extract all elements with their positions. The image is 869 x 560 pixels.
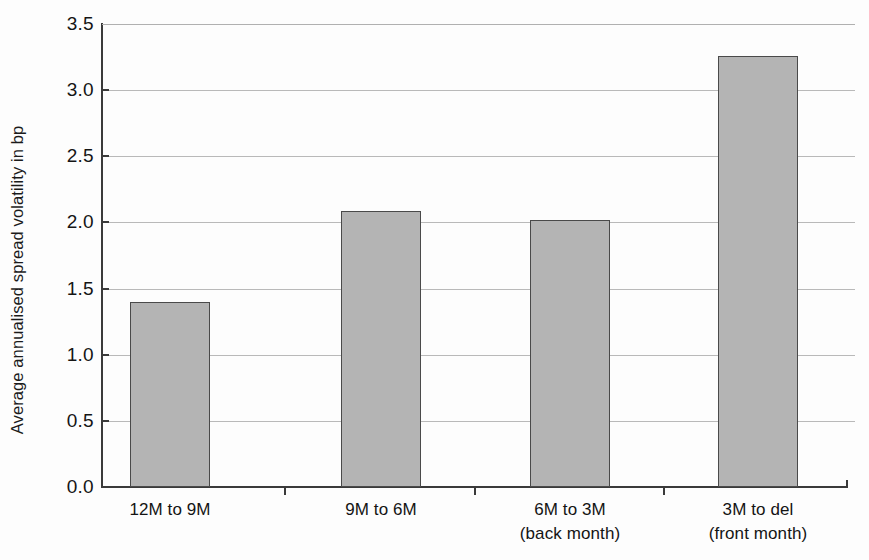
x-axis-tick-mark [284, 488, 286, 495]
y-axis-title: Average annualised spread volatility in … [0, 0, 34, 560]
x-axis-tick-mark [663, 488, 665, 495]
y-axis-tick-mark [102, 420, 109, 422]
gridline [102, 24, 855, 25]
bar [530, 220, 610, 487]
x-axis-category-label: 12M to 9M [77, 498, 263, 522]
bar [718, 56, 798, 487]
x-axis-tick-mark [474, 488, 476, 495]
y-axis-tick-label: 1.0 [46, 344, 94, 366]
y-axis-tick-label: 0.5 [46, 410, 94, 432]
bar [341, 211, 421, 487]
y-axis-tick-label: 3.0 [46, 79, 94, 101]
y-axis-tick-mark [102, 354, 109, 356]
y-axis-tick-mark [102, 288, 109, 290]
y-axis-tick-label: 2.0 [46, 211, 94, 233]
bar-chart: Average annualised spread volatility in … [0, 0, 869, 560]
y-axis-tick-label: 2.5 [46, 145, 94, 167]
y-axis-tick-label: 0.0 [46, 476, 94, 498]
x-axis-category-label: 9M to 6M [288, 498, 474, 522]
y-axis-tick-labels: 3.53.02.52.01.51.00.50.0 [38, 0, 94, 560]
y-axis-tick-label: 3.5 [46, 13, 94, 35]
y-axis-tick-mark [102, 89, 109, 91]
x-axis-category-label: 3M to del(front month) [665, 498, 851, 546]
bar [130, 302, 210, 487]
y-axis-tick-mark [102, 221, 109, 223]
y-axis-tick-mark [102, 155, 109, 157]
y-axis-tick-label: 1.5 [46, 278, 94, 300]
x-axis-category-label: 6M to 3M(back month) [477, 498, 663, 546]
